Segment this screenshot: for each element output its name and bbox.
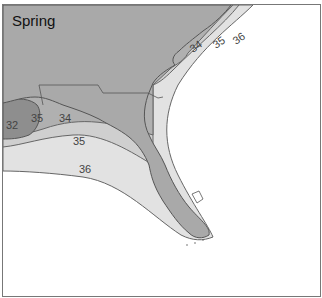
contour-label: 35 (31, 112, 43, 124)
map-frame: 32 35 34 35 36 34 35 36 Spring (2, 4, 321, 297)
salinity-map: 32 35 34 35 36 34 35 36 (3, 5, 320, 296)
contour-label: 36 (79, 163, 91, 175)
contour-label: 32 (6, 119, 18, 131)
contour-label: 34 (59, 112, 71, 124)
contour-label: 35 (73, 135, 85, 147)
map-title: Spring (12, 12, 55, 29)
